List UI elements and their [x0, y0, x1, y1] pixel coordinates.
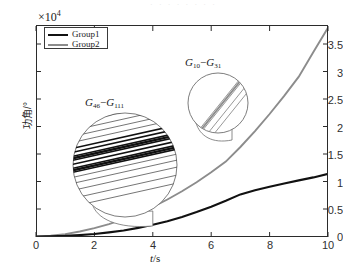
chart-legend: Group1 Group2: [44, 27, 108, 49]
annotation-label-right: G10−G31: [185, 56, 221, 70]
legend-label-group1: Group1: [72, 30, 100, 39]
annotation-left-to-sub: 111: [114, 102, 124, 110]
plot-frame: [36, 25, 328, 237]
figure-canvas: · · · · · · · · ×104 功角/° 0 0.5 1 1.5 2 …: [0, 0, 343, 272]
annotation-right-to-sub: 31: [214, 62, 221, 70]
annotation-right-from: G: [185, 56, 193, 68]
legend-swatch-group2: [48, 44, 68, 46]
annotation-label-left: G46−G111: [85, 96, 124, 110]
annotation-left-from-sub: 46: [93, 102, 100, 110]
legend-entry-group1: Group1: [48, 30, 104, 39]
annotation-right-to: G: [206, 56, 214, 68]
legend-label-group2: Group2: [72, 40, 100, 49]
legend-swatch-group1: [48, 34, 68, 36]
annotation-left-to: G: [106, 96, 114, 108]
annotation-right-from-sub: 10: [193, 62, 200, 70]
legend-entry-group2: Group2: [48, 40, 104, 49]
annotation-left-from: G: [85, 96, 93, 108]
